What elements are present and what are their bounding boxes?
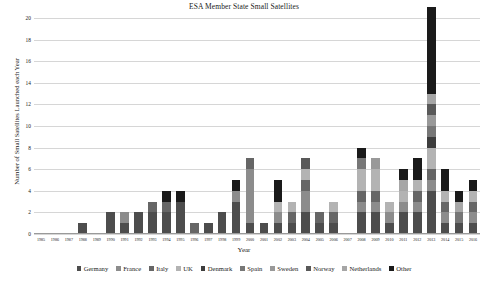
bar-segment[interactable]	[455, 191, 464, 202]
bar-segment[interactable]	[441, 212, 450, 223]
bar-segment[interactable]	[469, 202, 478, 213]
legend-item[interactable]: France	[116, 265, 141, 272]
bar-segment[interactable]	[427, 169, 436, 180]
bar-segment[interactable]	[427, 180, 436, 191]
bar-segment[interactable]	[357, 202, 366, 213]
bar-column[interactable]	[441, 169, 450, 234]
bar-column[interactable]	[329, 202, 338, 234]
bar-segment[interactable]	[413, 158, 422, 180]
bar-segment[interactable]	[371, 169, 380, 191]
bar-segment[interactable]	[455, 202, 464, 213]
legend-item[interactable]: UK	[176, 265, 193, 272]
bar-segment[interactable]	[315, 212, 324, 223]
bar-column[interactable]	[427, 7, 436, 234]
bar-segment[interactable]	[399, 169, 408, 180]
bar-segment[interactable]	[232, 180, 241, 191]
bar-segment[interactable]	[427, 7, 436, 93]
bar-column[interactable]	[315, 212, 324, 234]
bar-column[interactable]	[455, 191, 464, 234]
bar-segment[interactable]	[441, 202, 450, 213]
bar-segment[interactable]	[246, 169, 255, 223]
bar-column[interactable]	[274, 180, 283, 234]
bar-column[interactable]	[162, 191, 171, 234]
bar-segment[interactable]	[106, 212, 115, 234]
bar-segment[interactable]	[371, 158, 380, 169]
bar-segment[interactable]	[399, 180, 408, 191]
bar-column[interactable]	[288, 202, 297, 234]
bar-segment[interactable]	[357, 169, 366, 191]
bar-segment[interactable]	[371, 191, 380, 202]
bar-column[interactable]	[357, 148, 366, 234]
bar-segment[interactable]	[274, 202, 283, 213]
bar-segment[interactable]	[288, 202, 297, 213]
bar-segment[interactable]	[162, 191, 171, 202]
bar-column[interactable]	[106, 212, 115, 234]
bar-column[interactable]	[246, 158, 255, 234]
bar-segment[interactable]	[162, 202, 171, 213]
bar-segment[interactable]	[385, 202, 394, 213]
bar-segment[interactable]	[413, 191, 422, 202]
legend-item[interactable]: Germany	[77, 265, 109, 272]
bar-segment[interactable]	[371, 202, 380, 213]
bar-segment[interactable]	[120, 212, 129, 223]
bar-segment[interactable]	[357, 158, 366, 169]
bar-segment[interactable]	[301, 191, 310, 213]
bar-segment[interactable]	[427, 94, 436, 105]
bar-segment[interactable]	[329, 212, 338, 223]
bar-column[interactable]	[232, 180, 241, 234]
bar-segment[interactable]	[148, 212, 157, 234]
bar-segment[interactable]	[427, 104, 436, 115]
bar-segment[interactable]	[232, 202, 241, 234]
bar-segment[interactable]	[427, 115, 436, 126]
bar-column[interactable]	[399, 169, 408, 234]
bar-segment[interactable]	[357, 191, 366, 202]
bar-segment[interactable]	[134, 212, 143, 234]
bar-segment[interactable]	[469, 191, 478, 202]
bar-segment[interactable]	[176, 191, 185, 202]
bar-segment[interactable]	[441, 191, 450, 202]
legend-item[interactable]: Spain	[240, 265, 262, 272]
legend-item[interactable]: Other	[389, 265, 411, 272]
bar-segment[interactable]	[469, 180, 478, 191]
bar-column[interactable]	[301, 158, 310, 234]
legend-item[interactable]: Denmark	[201, 265, 233, 272]
bar-segment[interactable]	[413, 180, 422, 191]
bar-segment[interactable]	[427, 191, 436, 234]
bar-segment[interactable]	[301, 158, 310, 169]
bar-column[interactable]	[218, 212, 227, 234]
bar-segment[interactable]	[288, 212, 297, 223]
bar-segment[interactable]	[274, 212, 283, 223]
bar-segment[interactable]	[246, 158, 255, 169]
bar-column[interactable]	[120, 212, 129, 234]
bar-segment[interactable]	[399, 191, 408, 202]
bar-segment[interactable]	[441, 169, 450, 191]
bar-segment[interactable]	[427, 148, 436, 170]
bar-segment[interactable]	[413, 202, 422, 213]
bar-segment[interactable]	[357, 212, 366, 234]
bar-segment[interactable]	[218, 212, 227, 234]
bar-segment[interactable]	[413, 212, 422, 234]
bar-column[interactable]	[176, 191, 185, 234]
bar-column[interactable]	[469, 180, 478, 234]
bar-segment[interactable]	[176, 202, 185, 234]
bar-segment[interactable]	[371, 212, 380, 234]
bar-segment[interactable]	[357, 148, 366, 159]
bar-segment[interactable]	[399, 202, 408, 213]
bar-column[interactable]	[371, 158, 380, 234]
bar-column[interactable]	[134, 212, 143, 234]
bar-segment[interactable]	[274, 180, 283, 202]
bar-segment[interactable]	[385, 212, 394, 223]
bar-segment[interactable]	[427, 137, 436, 148]
bar-segment[interactable]	[148, 202, 157, 213]
bar-column[interactable]	[413, 158, 422, 234]
bar-segment[interactable]	[232, 191, 241, 202]
bar-column[interactable]	[385, 202, 394, 234]
bar-segment[interactable]	[399, 212, 408, 234]
legend-item[interactable]: Netherlands	[342, 265, 381, 272]
bar-segment[interactable]	[301, 180, 310, 191]
bar-segment[interactable]	[329, 202, 338, 213]
legend-item[interactable]: Norway	[306, 265, 334, 272]
bar-column[interactable]	[148, 202, 157, 234]
bar-segment[interactable]	[301, 169, 310, 180]
bar-segment[interactable]	[427, 126, 436, 137]
